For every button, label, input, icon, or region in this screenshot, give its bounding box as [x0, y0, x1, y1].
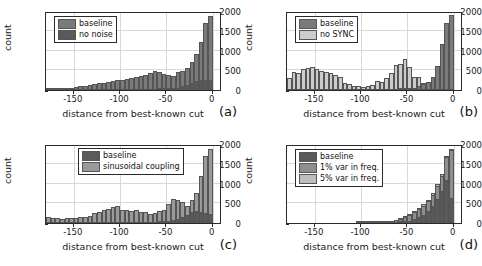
x-tick-label: 0 — [209, 228, 214, 237]
legend-item: 5% var in freq. — [299, 174, 379, 184]
panel-tag: (a) — [219, 104, 237, 119]
panel-a: count0500100015002000-150-100-500distanc… — [0, 0, 241, 133]
x-tick-label: -100 — [109, 95, 128, 104]
x-tick-mark — [406, 224, 407, 227]
legend-item: no SYNC — [299, 30, 354, 40]
x-tick-mark — [165, 91, 166, 94]
x-tick-label: -150 — [304, 228, 323, 237]
x-tick-label: -150 — [304, 95, 323, 104]
x-tick-label: -100 — [109, 228, 128, 237]
legend-swatch — [299, 19, 317, 29]
legend-label: baseline — [79, 20, 113, 28]
x-tick-label: -100 — [350, 228, 369, 237]
legend-swatch — [82, 162, 100, 172]
legend-label: baseline — [320, 20, 354, 28]
legend-swatch — [58, 30, 76, 40]
x-tick-label: 0 — [450, 95, 455, 104]
x-tick-mark — [314, 91, 315, 94]
y-tick-mark — [286, 224, 289, 225]
x-tick-mark — [453, 224, 454, 227]
panel-tag: (c) — [220, 237, 237, 252]
y-axis-label: count — [243, 157, 254, 184]
x-tick-mark — [360, 224, 361, 227]
legend-item: baseline — [82, 151, 180, 161]
legend-label: baseline — [103, 152, 137, 160]
legend-label: baseline — [320, 153, 354, 161]
legend: baselineno noise — [54, 16, 117, 43]
y-axis-label: count — [243, 24, 254, 51]
legend-label: sinusoidal coupling — [103, 163, 180, 171]
panel-c: count0500100015002000-150-100-500distanc… — [0, 133, 241, 266]
legend-swatch — [82, 151, 100, 161]
x-tick-label: -50 — [158, 228, 172, 237]
y-tick-mark — [45, 91, 48, 92]
legend-label: no SYNC — [320, 31, 354, 39]
x-tick-mark — [165, 224, 166, 227]
legend: baselineno SYNC — [295, 16, 358, 43]
x-axis-label: distance from best-known cut — [45, 241, 221, 252]
panel-tag: (d) — [460, 237, 478, 252]
legend-item: baseline — [299, 19, 354, 29]
x-tick-label: -150 — [63, 95, 82, 104]
x-tick-mark — [73, 91, 74, 94]
x-tick-label: -50 — [399, 228, 413, 237]
x-axis-label: distance from best-known cut — [286, 241, 462, 252]
y-axis-label: count — [2, 24, 13, 51]
legend-swatch — [299, 30, 317, 40]
x-tick-label: 0 — [450, 228, 455, 237]
legend-label: 5% var in freq. — [320, 175, 379, 183]
panel-tag: (b) — [460, 104, 478, 119]
x-tick-label: -150 — [63, 228, 82, 237]
panel-d: count0500100015002000-150-100-500distanc… — [241, 133, 482, 266]
legend: baselinesinusoidal coupling — [78, 148, 184, 175]
x-tick-mark — [212, 224, 213, 227]
x-axis-label: distance from best-known cut — [45, 108, 221, 119]
legend-item: baseline — [58, 19, 113, 29]
x-tick-mark — [406, 91, 407, 94]
histogram-bar — [208, 80, 213, 90]
legend-swatch — [299, 163, 317, 173]
legend-swatch — [299, 174, 317, 184]
x-tick-mark — [212, 91, 213, 94]
x-tick-mark — [119, 224, 120, 227]
histogram-figure: count0500100015002000-150-100-500distanc… — [0, 0, 482, 266]
x-tick-label: -50 — [158, 95, 172, 104]
x-tick-mark — [453, 91, 454, 94]
x-tick-label: -50 — [399, 95, 413, 104]
y-tick-mark — [286, 91, 289, 92]
histogram-bar — [449, 15, 454, 90]
x-tick-label: -100 — [350, 95, 369, 104]
legend-swatch — [58, 19, 76, 29]
legend-label: 1% var in freq. — [320, 164, 379, 172]
legend-swatch — [299, 152, 317, 162]
legend-item: baseline — [299, 152, 379, 162]
histogram-bar — [208, 214, 213, 223]
legend-item: no noise — [58, 30, 113, 40]
panel-b: count0500100015002000-150-100-500distanc… — [241, 0, 482, 133]
x-tick-mark — [360, 91, 361, 94]
legend-label: no noise — [79, 31, 113, 39]
x-tick-mark — [119, 91, 120, 94]
x-tick-mark — [314, 224, 315, 227]
y-axis-label: count — [2, 157, 13, 184]
y-tick-mark — [45, 224, 48, 225]
x-tick-label: 0 — [209, 95, 214, 104]
legend: baseline1% var in freq.5% var in freq. — [295, 149, 383, 187]
x-tick-mark — [73, 224, 74, 227]
legend-item: sinusoidal coupling — [82, 162, 180, 172]
histogram-bar — [449, 198, 454, 223]
legend-item: 1% var in freq. — [299, 163, 379, 173]
x-axis-label: distance from best-known cut — [286, 108, 462, 119]
